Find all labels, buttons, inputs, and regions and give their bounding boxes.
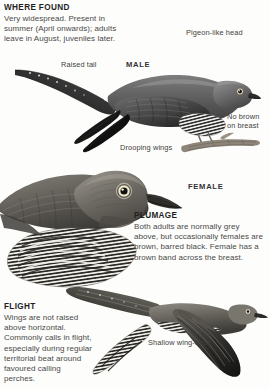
flight-heading: FLIGHT — [4, 302, 92, 312]
callout-no-brown-on-breast: No brown on breast — [227, 113, 259, 130]
field-guide-page: WHERE FOUND Very widespread. Present in … — [0, 0, 270, 388]
plumage-body: Both adults are normally grey above, but… — [134, 222, 266, 263]
label-male: MALE — [126, 60, 150, 69]
callout-no-brown-line-2: on breast — [227, 121, 259, 130]
section-where-found: WHERE FOUND Very widespread. Present in … — [4, 3, 128, 45]
section-plumage: PLUMAGE Both adults are normally grey ab… — [134, 211, 266, 263]
callout-shallow-wing-beat: Shallow wing-beat — [148, 339, 210, 348]
callout-drooping-wings: Drooping wings — [120, 144, 172, 153]
callout-raised-tail: Raised tail — [61, 61, 97, 70]
cuckoo-in-flight-illustration — [62, 278, 270, 386]
label-female: FEMALE — [188, 182, 223, 191]
plumage-heading: PLUMAGE — [134, 211, 266, 221]
section-flight: FLIGHT Wings are not raised above horizo… — [4, 302, 92, 384]
callout-pigeon-like-head: Pigeon-like head — [186, 29, 243, 38]
where-found-heading: WHERE FOUND — [4, 3, 128, 13]
where-found-body: Very widespread. Present in summer (Apri… — [4, 14, 128, 45]
flight-body: Wings are not raised above horizontal. C… — [4, 313, 92, 384]
